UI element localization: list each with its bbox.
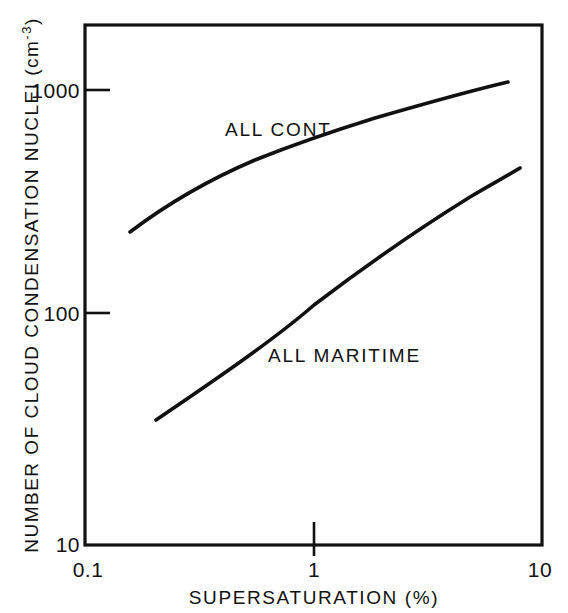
y-tick-label-100: 100	[43, 302, 80, 325]
series-label-all-cont: ALL CONT	[225, 119, 332, 140]
plot-frame	[85, 25, 542, 545]
x-tick-label-1: 1	[308, 558, 320, 581]
y-axis-title-exponent: -3	[19, 25, 34, 40]
y-axis-title-main: NUMBER OF CLOUD CONDENSATION NUCLEI (cm	[21, 40, 42, 553]
y-axis-ticks	[85, 90, 110, 313]
series-curve-all-maritime	[156, 168, 520, 420]
y-axis-title-group: NUMBER OF CLOUD CONDENSATION NUCLEI (cm-…	[19, 17, 42, 553]
x-tick-label-10: 10	[528, 558, 552, 581]
figure-container: 1000 100 10 0.1 1 10 SUPERSATURATION (%)…	[0, 0, 568, 613]
y-axis-title-close: )	[21, 17, 42, 25]
y-tick-label-10: 10	[56, 533, 80, 556]
series-label-all-maritime: ALL MARITIME	[268, 345, 421, 366]
y-axis-title: NUMBER OF CLOUD CONDENSATION NUCLEI (cm-…	[19, 17, 42, 553]
x-axis-title: SUPERSATURATION (%)	[189, 587, 439, 608]
chart-canvas: 1000 100 10 0.1 1 10 SUPERSATURATION (%)…	[0, 0, 568, 613]
x-tick-label-0.1: 0.1	[73, 558, 104, 581]
